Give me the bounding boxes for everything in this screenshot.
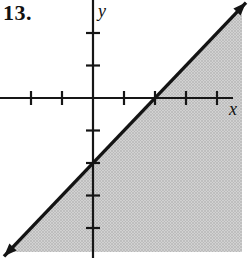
inequality-graph: [0, 0, 250, 263]
y-axis-label: y: [98, 2, 106, 20]
textbook-graph-figure: 13. y x: [0, 0, 250, 263]
problem-number-label: 13.: [3, 0, 32, 26]
x-axis-label: x: [229, 100, 237, 118]
